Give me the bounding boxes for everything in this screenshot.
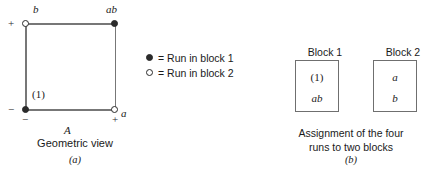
block-2-box: [373, 60, 417, 112]
block-1-header: Block 1: [295, 46, 355, 58]
block-2-header: Block 2: [373, 46, 432, 58]
panel-a-caption: Geometric view: [0, 137, 150, 149]
block-2-run-1: a: [373, 71, 417, 83]
corner-label-ab: ab: [106, 4, 117, 15]
corner-label-b: b: [33, 4, 39, 15]
legend: = Run in block 1 = Run in block 2: [146, 50, 266, 80]
square-edge-right: [115, 23, 117, 111]
panel-b-caption-line-1: Assignment of the four: [270, 126, 432, 140]
sign-left-bottom: −: [8, 104, 14, 115]
legend-label-block-2: = Run in block 2: [158, 67, 234, 79]
filled-circle-icon: [146, 54, 153, 61]
block-1-run-2: ab: [295, 92, 339, 104]
legend-item-block-1: = Run in block 1: [146, 50, 266, 65]
panel-b-caption: Assignment of the four runs to two block…: [270, 126, 432, 154]
panel-a-geometric-view: b ab (1) a + − − + A Geometric view (a): [0, 0, 150, 174]
panel-b-block-assignment: Block 1 Block 2 (1) ab a b Assignment of…: [270, 0, 432, 174]
panel-b-caption-line-2: runs to two blocks: [270, 140, 432, 154]
axis-label-a: A: [64, 124, 71, 136]
panel-a-letter: (a): [0, 154, 150, 165]
block-1-box: [295, 60, 339, 112]
panel-b-letter: (b): [270, 154, 432, 165]
block-2-run-2: b: [373, 92, 417, 104]
sign-left-top: +: [8, 18, 14, 29]
corner-label-a: a: [121, 108, 127, 119]
corner-label-one: (1): [32, 89, 45, 100]
corner-marker-b-open-circle-icon: [22, 20, 29, 27]
square-edge-top: [25, 23, 116, 25]
block-1-run-1: (1): [295, 71, 339, 83]
square-edge-bottom: [25, 109, 116, 111]
legend-item-block-2: = Run in block 2: [146, 65, 266, 80]
corner-marker-ab-filled-circle-icon: [111, 20, 118, 27]
legend-label-block-1: = Run in block 1: [158, 52, 234, 64]
design-square: b ab (1) a + − − +: [0, 0, 150, 130]
square-edge-left: [25, 23, 27, 111]
sign-bottom-left: −: [22, 114, 28, 125]
sign-bottom-right: +: [112, 114, 118, 125]
figure-2x2-factorial-blocking: b ab (1) a + − − + A Geometric view (a) …: [0, 0, 432, 174]
open-circle-icon: [146, 69, 153, 76]
